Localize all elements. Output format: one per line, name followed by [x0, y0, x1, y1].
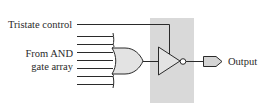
output-pin-icon: [204, 57, 223, 67]
inversion-bubble-icon: [180, 59, 186, 65]
from-and-label-line1: From AND: [25, 48, 73, 59]
tristate-output-diagram: Tristate control From AND gate array Out…: [0, 0, 271, 111]
diagram-canvas: Tristate control From AND gate array Out…: [0, 0, 271, 111]
and-array-input-lines: [77, 37, 113, 85]
output-label: Output: [228, 56, 257, 67]
or-gate: [112, 33, 143, 88]
from-and-label-line2: gate array: [31, 61, 73, 72]
tristate-control-label: Tristate control: [8, 19, 72, 30]
